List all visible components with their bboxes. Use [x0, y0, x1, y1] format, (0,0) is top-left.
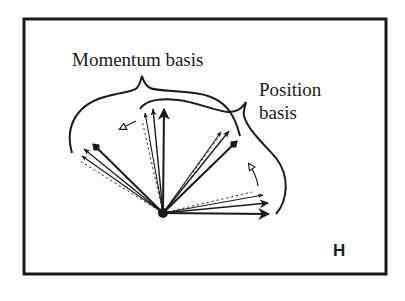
position-vectors-upper-right: [163, 131, 237, 213]
position-basis-label-line2: basis: [259, 102, 297, 123]
momentum-rotation-arrow: [120, 121, 136, 129]
position-vectors-horizontal: [163, 192, 269, 214]
panel-label: H: [333, 241, 345, 260]
position-basis-label-line1: Position: [259, 79, 322, 100]
origin-point: [158, 208, 168, 218]
diagram-canvas: Momentum basis Position basis H: [0, 0, 405, 301]
momentum-vectors-vertical: [142, 109, 164, 213]
momentum-vectors-upper-left: [80, 144, 163, 213]
momentum-basis-label: Momentum basis: [72, 49, 203, 70]
position-rotation-arrow: [249, 164, 258, 186]
